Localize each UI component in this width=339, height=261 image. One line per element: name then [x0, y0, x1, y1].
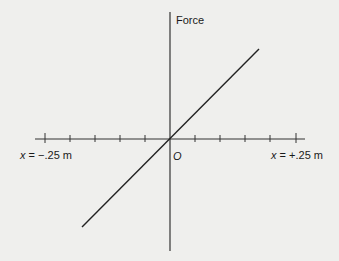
right-value: = +.25 m	[277, 149, 323, 161]
right-endpoint-label: x = +.25 m	[271, 150, 323, 161]
origin-label: O	[173, 151, 182, 162]
left-endpoint-label: x = −.25 m	[20, 150, 72, 161]
left-value: = −.25 m	[26, 149, 72, 161]
force-graph	[0, 0, 339, 261]
force-axis-label: Force	[176, 15, 204, 26]
